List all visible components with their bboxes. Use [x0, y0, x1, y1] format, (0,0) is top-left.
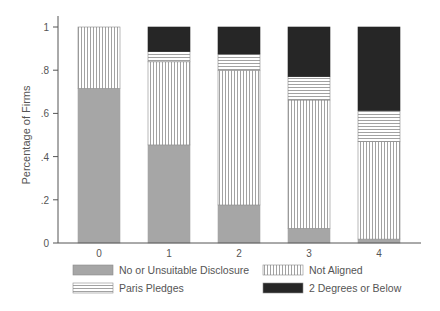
- bar-segment-2-degrees-or-below-3: [288, 27, 330, 77]
- x-tick-label: 4: [376, 248, 382, 259]
- bar-segment-not-aligned-1: [148, 62, 190, 145]
- bar-segment-paris-pledges-3: [288, 77, 330, 100]
- bar-segment-2-degrees-or-below-1: [148, 27, 190, 52]
- y-ticks-group: 0.2.4.6.81: [41, 22, 58, 249]
- legend-swatch-2-degrees-or-below: [263, 283, 303, 293]
- y-tick-label: .6: [41, 108, 50, 119]
- y-tick-label: .4: [41, 152, 50, 163]
- legend-label: Not Aligned: [309, 264, 363, 276]
- x-tick-label: 2: [236, 248, 242, 259]
- legend-swatch-no-or-unsuitable-disclosure: [73, 265, 113, 275]
- legend-swatch-not-aligned: [263, 265, 303, 275]
- y-tick-label: .8: [41, 65, 50, 76]
- bar-segment-not-aligned-3: [288, 100, 330, 228]
- bar-segment-paris-pledges-1: [148, 52, 190, 62]
- x-tick-label: 3: [306, 248, 312, 259]
- legend: No or Unsuitable DisclosureNot AlignedPa…: [73, 264, 402, 294]
- bars-group: [78, 27, 400, 243]
- legend-label: 2 Degrees or Below: [309, 282, 402, 294]
- bar-segment-no-or-unsuitable-disclosure-2: [218, 205, 260, 243]
- y-tick-label: 1: [43, 22, 49, 33]
- bar-segment-no-or-unsuitable-disclosure-1: [148, 145, 190, 243]
- bar-segment-paris-pledges-2: [218, 54, 260, 70]
- bar-segment-no-or-unsuitable-disclosure-3: [288, 228, 330, 243]
- bar-segment-2-degrees-or-below-2: [218, 27, 260, 54]
- legend-label: No or Unsuitable Disclosure: [119, 264, 249, 276]
- x-tick-label: 0: [96, 248, 102, 259]
- bar-segment-no-or-unsuitable-disclosure-0: [78, 88, 120, 243]
- x-ticks-group: 01234: [96, 248, 382, 259]
- stacked-bar-chart: 0.2.4.6.81 01234 Percentage of Firms No …: [0, 0, 440, 311]
- bar-segment-no-or-unsuitable-disclosure-4: [358, 239, 400, 243]
- bar-segment-not-aligned-2: [218, 70, 260, 205]
- legend-swatch-paris-pledges: [73, 283, 113, 293]
- y-tick-label: .2: [41, 195, 50, 206]
- bar-segment-not-aligned-0: [78, 27, 120, 88]
- legend-label: Paris Pledges: [119, 282, 184, 294]
- bar-segment-not-aligned-4: [358, 142, 400, 239]
- bar-segment-paris-pledges-4: [358, 111, 400, 142]
- y-tick-label: 0: [43, 238, 49, 249]
- y-axis-label: Percentage of Firms: [20, 85, 32, 185]
- bar-segment-2-degrees-or-below-4: [358, 27, 400, 111]
- x-tick-label: 1: [166, 248, 172, 259]
